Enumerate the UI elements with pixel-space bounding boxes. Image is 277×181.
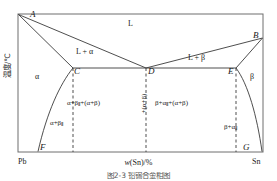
point-label-c: C — [74, 67, 80, 76]
phase-diagram-figure: A B C D E F G L L + α L + β α β α+βⅡ β+α… — [0, 0, 277, 181]
phase-label-liquid: L — [128, 20, 133, 28]
phase-label-beta-plus-alpha2-sub: Ⅱ — [235, 126, 237, 131]
phase-label-beta: β — [250, 73, 254, 81]
x-axis-title-unit: (Sn)/% — [130, 158, 153, 167]
phase-label-mid-left: α+βⅡ+(α+β) — [67, 100, 100, 107]
phase-label-alpha-plus-beta2: α+βⅡ — [50, 120, 63, 127]
phase-label-mid-right-b: +(α+β) — [168, 99, 188, 107]
point-label-d: D — [148, 67, 155, 76]
point-label-b: B — [253, 31, 259, 40]
x-axis-endpoint-pb: Pb — [18, 158, 26, 166]
x-axis-endpoint-sn: Sn — [252, 158, 260, 166]
phase-label-liquid-plus-beta: L + β — [188, 54, 205, 62]
phase-label-mid-right: β+αⅡ+(α+β) — [155, 100, 188, 107]
point-label-f: F — [40, 143, 46, 152]
phase-label-mid-left-a: α+β — [67, 99, 78, 107]
x-axis-title: w(Sn)/% — [0, 159, 277, 167]
phase-label-mid-left-b: +(α+β) — [80, 99, 100, 107]
phase-label-mid-vertical: +(α+β) — [141, 83, 148, 125]
point-label-e: E — [228, 67, 234, 76]
phase-label-beta-plus-alpha2: β+αⅡ — [224, 124, 237, 131]
phase-diagram-canvas — [0, 0, 277, 181]
phase-label-alpha-plus-beta2-sub: Ⅱ — [61, 122, 63, 127]
point-label-g: G — [243, 143, 250, 152]
phase-label-beta-plus-alpha2-main: β+α — [224, 123, 235, 131]
y-axis-title: 温度/℃ — [4, 34, 12, 98]
figure-caption: 图2-3 铅锡合金相图 — [0, 172, 277, 181]
phase-label-alpha: α — [35, 73, 39, 81]
phase-label-mid-right-a: β+α — [155, 99, 166, 107]
phase-label-alpha-plus-beta2-main: α+β — [50, 119, 61, 127]
point-label-a: A — [30, 10, 36, 19]
phase-label-liquid-plus-alpha: L + α — [76, 48, 93, 56]
